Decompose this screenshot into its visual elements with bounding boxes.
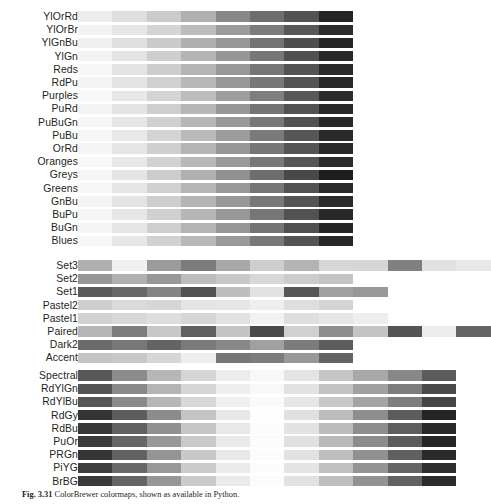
colormap-swatch [353, 287, 387, 297]
colormap-swatch [147, 370, 181, 380]
colormap-swatch [319, 423, 353, 433]
colormap-bar [78, 313, 388, 323]
colormap-swatch [78, 450, 112, 460]
colormap-swatch [181, 77, 215, 87]
colormap-swatch [181, 236, 215, 246]
colormap-label: YlOrBr [46, 23, 78, 36]
colormap-label: Pastel2 [43, 299, 78, 312]
colormap-swatch [250, 183, 284, 193]
colormap-swatch [216, 91, 250, 101]
colormap-swatch [78, 77, 112, 87]
colormap-label: Reds [53, 63, 78, 76]
colormap-swatch [181, 104, 215, 114]
colormap-swatch [216, 370, 250, 380]
colormap-swatch [112, 223, 146, 233]
colormap-swatch [112, 436, 146, 446]
colormap-swatch [388, 436, 422, 446]
colormap-swatch [147, 11, 181, 21]
colormap-swatch [112, 300, 146, 310]
colormap-row: BuGn [0, 221, 457, 234]
colormap-swatch [250, 91, 284, 101]
colormap-bar [78, 397, 456, 407]
colormap-swatch [284, 326, 318, 336]
colormap-bar [78, 436, 456, 446]
colormap-swatch [78, 370, 112, 380]
colormap-swatch [112, 38, 146, 48]
colormap-swatch [216, 183, 250, 193]
colormap-swatch [319, 326, 353, 336]
colormap-swatch [78, 340, 112, 350]
colormap-swatch [147, 91, 181, 101]
colormap-swatch [284, 260, 318, 270]
colormap-label: Set3 [56, 259, 78, 272]
colormap-label: YlGnBu [42, 36, 78, 49]
colormap-swatch [284, 313, 318, 323]
colormap-swatch [319, 104, 353, 114]
colormap-swatch [112, 476, 146, 486]
colormap-swatch [181, 370, 215, 380]
colormap-swatch [216, 25, 250, 35]
colormap-swatch [216, 64, 250, 74]
colormap-bar [78, 25, 353, 35]
colormap-swatch [216, 209, 250, 219]
colormap-swatch [284, 157, 318, 167]
colormap-bar [78, 51, 353, 61]
colormap-row: BuPu [0, 208, 457, 221]
colormap-swatch [147, 130, 181, 140]
colormap-swatch [78, 64, 112, 74]
colormap-label: PiYG [53, 461, 78, 474]
colormap-swatch [250, 340, 284, 350]
colormap-swatch [319, 196, 353, 206]
colormap-swatch [456, 260, 490, 270]
colormap-swatch [319, 25, 353, 35]
colormap-swatch [422, 260, 456, 270]
colormap-label: Pastel1 [43, 312, 78, 325]
colormap-label: RdYlBu [42, 395, 78, 408]
colormap-swatch [147, 183, 181, 193]
colormap-bar [78, 463, 456, 473]
colormap-swatch [284, 463, 318, 473]
colormap-swatch [181, 170, 215, 180]
colormap-swatch [147, 223, 181, 233]
colormap-swatch [216, 326, 250, 336]
colormap-swatch [250, 223, 284, 233]
colormap-swatch [78, 287, 112, 297]
colormap-label: Spectral [39, 369, 78, 382]
colormap-swatch [181, 274, 215, 284]
colormap-group-sequential: YlOrRdYlOrBrYlGnBuYlGnRedsRdPuPurplesPuR… [0, 10, 457, 248]
colormap-swatch [147, 117, 181, 127]
colormap-swatch [78, 423, 112, 433]
colormap-row: Greys [0, 168, 457, 181]
colormap-label: Accent [46, 351, 78, 364]
colormap-swatch [112, 104, 146, 114]
colormap-swatch [319, 183, 353, 193]
colormap-swatch [216, 236, 250, 246]
colormap-swatch [216, 353, 250, 363]
colormap-swatch [112, 77, 146, 87]
colormap-swatch [147, 450, 181, 460]
colormap-swatch [147, 64, 181, 74]
colormap-swatch [250, 450, 284, 460]
colormap-swatch [319, 463, 353, 473]
colormap-swatch [353, 423, 387, 433]
colormap-swatch [250, 38, 284, 48]
colormap-swatch [78, 130, 112, 140]
colormap-swatch [284, 300, 318, 310]
colormap-swatch [284, 476, 318, 486]
colormap-swatch [181, 223, 215, 233]
colormap-swatch [284, 274, 318, 284]
colormap-swatch [78, 223, 112, 233]
colormap-swatch [147, 313, 181, 323]
colormap-swatch [181, 25, 215, 35]
colormap-bar [78, 11, 353, 21]
colormap-swatch [78, 51, 112, 61]
colormap-swatch [78, 313, 112, 323]
colormap-label: YlOrRd [43, 10, 78, 23]
colormap-swatch [78, 384, 112, 394]
colormap-swatch [78, 476, 112, 486]
colormap-swatch [319, 143, 353, 153]
colormap-swatch [78, 326, 112, 336]
colormap-swatch [112, 260, 146, 270]
colormap-label: Oranges [37, 155, 78, 168]
colormap-swatch [112, 130, 146, 140]
